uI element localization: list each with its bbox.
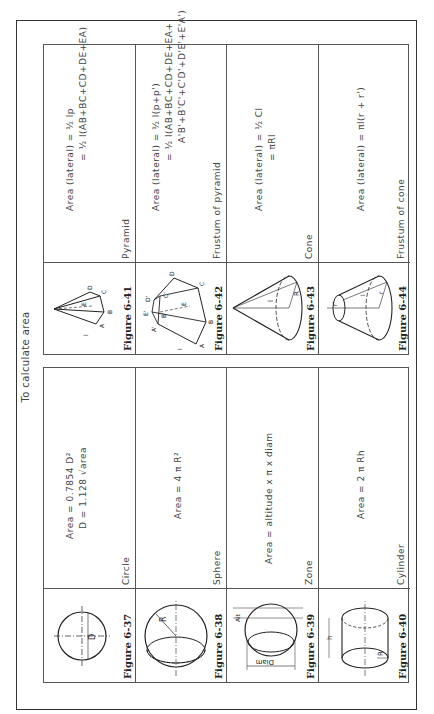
svg-text:C: C [100,290,107,294]
svg-text:D: D [168,271,175,276]
shape-name: Pyramid [121,219,131,259]
table-row-frustum-pyramid: A B C D E A' B' C' D' E' l Figure 6-42 A… [136,45,228,354]
formula: Area = 4 π R² [172,452,185,519]
figure-cell: l R Figure 6-43 [227,262,318,354]
table-row-circle: D Figure 6-37 Area = 0.7854 D² D = 1.128… [44,368,136,682]
svg-text:R: R [377,651,385,656]
table-row-pyramid: A B C D E l Figure 6-41 Area (lateral) =… [44,45,136,354]
svg-text:D': D' [144,295,151,302]
figure-label: Figure 6-43 [305,286,316,351]
page-title: To calculate area [20,0,31,714]
cone-diagram-icon: l R [229,266,305,352]
text-cell: Area = 4 π R² Sphere [136,368,227,589]
svg-text:B: B [106,310,113,314]
svg-text:C: C [198,282,205,286]
figure-label: Figure 6-40 [397,614,408,679]
area-table-right: A B C D E l Figure 6-41 Area (lateral) =… [43,44,409,355]
text-cell: Area = altitude x π x diam Zone [227,368,318,589]
formula: Area (lateral) = ½ lp = ½ l(AB+BC+CD+DE+… [64,27,90,211]
text-cell: Area (lateral) = ½ l(p+p') = ½ l(AB+BC+C… [136,45,227,263]
svg-text:D: D [86,285,93,290]
svg-text:R: R [159,616,168,622]
shape-name: Cylinder [396,544,406,585]
figure-label: Figure 6-37 [122,614,133,679]
svg-text:R: R [293,291,301,296]
figure-label: Figure 6-39 [305,614,316,679]
formula: Area (lateral) = πl(r + r') [355,87,368,211]
figure-cell: r' r l Figure 6-44 [319,262,411,354]
svg-text:D: D [88,634,97,640]
svg-text:E: E [180,302,187,306]
shape-name: Cone [304,234,314,259]
formula: Area = altitude x π x diam [263,432,276,564]
rotated-page: To calculate area D Figure 6-37 Area = 0… [0,0,434,714]
svg-text:l: l [267,300,275,302]
formula: Area (lateral) = ½ Cl = πRl [253,107,279,211]
svg-text:B': B' [160,312,167,318]
table-row-frustum-cone: r' r l Figure 6-44 Area (lateral) = πl(r… [319,45,411,354]
svg-text:A: A [198,343,205,348]
svg-text:l: l [82,334,89,336]
figure-cell: h R Figure 6-40 [319,588,411,682]
formula: Area (lateral) = ½ l(p+p') = ½ l(AB+BC+C… [150,10,189,211]
table-row-sphere: R Figure 6-38 Area = 4 π R² Sphere [136,368,228,682]
figure-cell: A B C D E A' B' C' D' E' l Figure 6-42 [136,262,227,354]
zone-diagram-icon: Diam Alt [229,592,305,680]
circle-diagram-icon: D [46,592,120,680]
svg-text:Alt: Alt [234,613,241,622]
svg-text:h: h [326,636,334,640]
cone-frustum-diagram-icon: r' r l [321,266,397,352]
formula: Area = 0.7854 D² D = 1.128 √area [64,447,90,539]
figure-label: Figure 6-38 [213,614,224,679]
shape-name: Sphere [212,550,222,585]
sphere-diagram-icon: R [138,592,214,680]
figure-cell: R Figure 6-38 [136,588,227,682]
shape-name: Frustum of cone [396,179,406,259]
figure-cell: Diam Alt Figure 6-39 [227,588,318,682]
text-cell: Area (lateral) = πl(r + r') Frustum of c… [319,45,411,263]
table-row-cylinder: h R Figure 6-40 Area = 2 π Rh Cylinder [319,368,411,682]
text-cell: Area = 0.7854 D² D = 1.128 √area Circle [44,368,135,589]
text-cell: Area = 2 π Rh Cylinder [319,368,411,589]
shape-name: Zone [304,560,314,585]
figure-cell: A B C D E l Figure 6-41 [44,262,135,354]
svg-text:l: l [176,348,183,350]
figure-label: Figure 6-42 [213,286,224,351]
text-cell: Area (lateral) = ½ Cl = πRl Cone [227,45,318,263]
pyramid-diagram-icon: A B C D E l [46,266,120,352]
svg-text:l: l [359,294,366,296]
figure-label: Figure 6-41 [122,286,133,351]
svg-text:E: E [80,302,87,306]
table-row-cone: l R Figure 6-43 Area (lateral) = ½ Cl = … [227,45,319,354]
svg-text:E': E' [142,310,149,316]
svg-text:C': C' [162,292,169,298]
text-cell: Area (lateral) = ½ lp = ½ l(AB+BC+CD+DE+… [44,45,135,263]
area-table-left: D Figure 6-37 Area = 0.7854 D² D = 1.128… [43,367,409,683]
pyramid-frustum-diagram-icon: A B C D E A' B' C' D' E' l [138,266,214,352]
table-row-zone: Diam Alt Figure 6-39 Area = altitude x π… [227,368,319,682]
figure-label: Figure 6-44 [397,286,408,351]
cylinder-diagram-icon: h R [321,592,397,680]
svg-text:Diam: Diam [255,658,274,666]
figure-cell: D Figure 6-37 [44,588,135,682]
svg-text:A: A [98,323,105,328]
shape-name: Frustum of pyramid [212,162,222,259]
svg-text:A': A' [150,326,157,332]
svg-text:r': r' [331,302,338,306]
shape-name: Circle [121,557,131,585]
formula: Area = 2 π Rh [355,450,368,519]
svg-text:r: r [377,291,384,294]
